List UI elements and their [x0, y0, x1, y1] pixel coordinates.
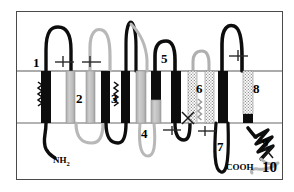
helix-bar-6a	[188, 71, 197, 123]
helix-bar-3a	[101, 71, 110, 123]
helix-bar-7	[218, 71, 228, 123]
glycosylation-marker-5	[229, 50, 248, 61]
membrane-bilayer	[17, 71, 282, 123]
loop-5-6	[175, 123, 190, 140]
helix-bar-6b	[205, 71, 214, 123]
loop-3-4	[106, 123, 126, 143]
helix-label-9: 9	[262, 136, 269, 149]
helix-label-10: 10	[262, 160, 277, 175]
helix-bar-5-lower	[151, 100, 161, 123]
spring-mark-3	[198, 99, 202, 120]
helix-bar-8	[243, 71, 253, 114]
loop-gray-outer	[90, 30, 110, 71]
n-terminus-subscript: 2	[67, 160, 70, 167]
loop-2-3	[76, 123, 103, 143]
n-terminus-label: NH2	[53, 156, 70, 167]
helix-label-6: 6	[196, 82, 203, 95]
loop-n-terminal	[44, 123, 55, 158]
c-terminus-text: COOH	[226, 162, 254, 172]
loop-1-2	[46, 27, 71, 71]
helix-bar-5b	[171, 71, 181, 123]
c-terminus-label: COOH	[226, 163, 254, 172]
helix-label-8: 8	[253, 82, 260, 95]
helix-label-4: 4	[141, 127, 148, 140]
helix-bar-2b	[86, 71, 95, 123]
helix-bar-2a	[66, 71, 75, 123]
transmembrane-helices	[41, 71, 253, 123]
n-terminus-text: NH	[53, 155, 67, 165]
helix-bar-8-foot	[243, 114, 253, 123]
glycosylation-marker-4	[198, 126, 216, 136]
helix-bar-4	[136, 71, 146, 123]
helix-label-1: 1	[33, 56, 40, 69]
glycosylation-marker-3	[163, 126, 181, 135]
helix-bar-3b	[121, 71, 130, 123]
helix-bar-5-upper	[151, 71, 161, 100]
helix-label-2: 2	[76, 92, 83, 105]
helix-label-7: 7	[217, 140, 224, 153]
helix-label-5: 5	[161, 52, 168, 65]
loop-6-7	[222, 26, 242, 71]
helix-label-3: 3	[111, 92, 118, 105]
loop-6-hairpin	[193, 51, 209, 71]
membrane-topology-figure: 1 2 3 4 5 6 7 8 9 10 NH2 COOH	[0, 0, 294, 192]
